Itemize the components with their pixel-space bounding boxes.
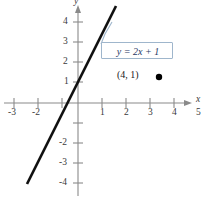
x-tick-label--2: -2 (32, 108, 40, 118)
equation-callout-box: y = 2x + 1 (101, 42, 173, 59)
y-axis (75, 5, 81, 196)
y-tick-label-3: 3 (63, 37, 68, 47)
y-axis-title: y (74, 0, 78, 7)
x-axis (4, 100, 192, 106)
x-tick-label-4: 4 (172, 108, 177, 118)
y-tick-label-4: 4 (63, 17, 68, 27)
x-tick-label-2: 2 (124, 108, 129, 118)
y-tick-label-2: 2 (63, 57, 68, 67)
graph-canvas (0, 0, 210, 199)
x-tick-label-1: 1 (100, 108, 105, 118)
x-tick-label-3: 3 (148, 108, 153, 118)
x-tick-label--3: -3 (8, 108, 16, 118)
figure-coordinate-plane: -3 -2 1 2 3 4 5 4 3 2 1 -2 -3 -4 x y (4,… (0, 0, 210, 199)
equation-callout-text: y = 2x + 1 (102, 43, 174, 60)
x-axis-title: x (196, 95, 200, 105)
y-tick-label--4: -4 (59, 178, 67, 188)
y-tick-label--3: -3 (59, 158, 67, 168)
point-label-4-1: (4, 1) (117, 70, 139, 80)
y-tick-label--2: -2 (59, 138, 67, 148)
x-tick-label-5: 5 (196, 108, 201, 118)
line-y-equals-2x-plus-1 (27, 6, 116, 184)
y-tick-label-1: 1 (64, 77, 69, 87)
point-marker-4-1 (156, 74, 162, 80)
